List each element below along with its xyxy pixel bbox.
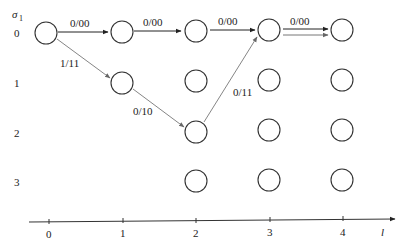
node-3-3 (258, 169, 280, 191)
edge-label-6: 0/10 (133, 105, 153, 117)
node-1-0 (111, 21, 133, 43)
node-2-3 (185, 170, 207, 192)
edge-label-3: 0/00 (290, 15, 310, 27)
edge-label-5: 1/11 (60, 57, 79, 69)
nodes (35, 19, 353, 192)
node-2-2 (185, 121, 207, 143)
edge-label-7: 0/11 (233, 86, 252, 98)
sigma-subscript: 1 (19, 14, 23, 23)
node-3-1 (258, 69, 280, 91)
x-axis-label: l (381, 226, 384, 238)
edge-label-2: 0/00 (218, 15, 238, 27)
edge-label-1: 0/00 (143, 16, 163, 28)
edge-label-0: 0/00 (70, 17, 90, 29)
node-0-0 (35, 22, 57, 44)
node-1-1 (111, 72, 133, 94)
node-4-1 (331, 69, 353, 91)
x-axis-line (29, 219, 395, 222)
x-tick-label-2: 2 (193, 227, 199, 239)
node-2-1 (185, 70, 207, 92)
trellis-diagram: σ 1 0 1 2 3 0/00 0/00 0/00 0/00 1/11 0/1… (0, 0, 406, 249)
node-3-0 (258, 19, 280, 41)
x-tick-label-4: 4 (340, 226, 346, 238)
node-4-0 (331, 19, 353, 41)
edge-2-2-to-3-0 (204, 37, 257, 122)
row-label-0: 0 (14, 27, 20, 39)
row-label-2: 2 (14, 127, 20, 139)
sigma-symbol: σ (12, 8, 18, 20)
node-4-2 (331, 119, 353, 141)
row-labels: 0 1 2 3 (14, 27, 20, 188)
x-tick-label-3: 3 (267, 226, 273, 238)
row-label-1: 1 (14, 77, 20, 89)
y-axis-label: σ 1 (12, 8, 23, 23)
row-label-3: 3 (14, 176, 20, 188)
node-3-2 (258, 119, 280, 141)
x-tick-label-0: 0 (46, 228, 52, 240)
node-2-0 (185, 20, 207, 42)
node-4-3 (331, 169, 353, 191)
x-tick-label-1: 1 (120, 227, 126, 239)
x-axis: 0 1 2 3 4 l (29, 216, 395, 240)
